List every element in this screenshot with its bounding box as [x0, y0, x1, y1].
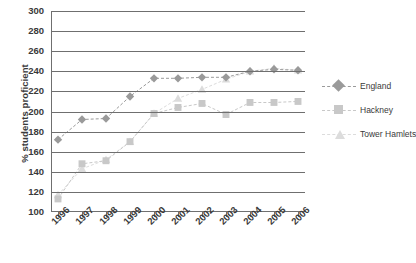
gridline — [51, 31, 305, 32]
data-point-marker — [79, 160, 86, 167]
chart-legend: EnglandHackneyTower Hamlets — [322, 74, 406, 146]
x-axis-tick-labels: 1996199719981999200020012002200320042005… — [51, 216, 321, 263]
y-axis-tick-labels: 300280260240220200180160140120100 — [16, 0, 44, 263]
y-tick-label: 100 — [18, 207, 44, 217]
gridline — [51, 152, 305, 153]
y-tick-label: 220 — [18, 86, 44, 96]
legend-marker-diamond-icon — [332, 79, 345, 92]
y-tick-label: 140 — [18, 167, 44, 177]
legend-marker-triangle-icon — [335, 130, 345, 139]
legend-item-england[interactable]: England — [322, 74, 406, 98]
legend-swatch — [322, 79, 356, 93]
data-point-marker — [198, 73, 206, 81]
data-point-marker — [102, 114, 110, 122]
y-tick-label: 260 — [18, 46, 44, 56]
data-point-marker — [271, 99, 278, 106]
y-tick-label: 160 — [18, 147, 44, 157]
legend-item-hackney[interactable]: Hackney — [322, 98, 406, 122]
data-point-marker — [199, 100, 206, 107]
plot-area — [51, 11, 305, 212]
legend-item-tower-hamlets[interactable]: Tower Hamlets — [322, 122, 406, 146]
data-point-marker — [247, 99, 254, 106]
data-point-marker — [126, 92, 134, 100]
data-point-marker — [127, 138, 134, 145]
data-point-marker — [295, 98, 302, 105]
legend-label: England — [360, 81, 391, 91]
gridline — [51, 11, 305, 12]
gridline — [51, 51, 305, 52]
data-point-marker — [175, 104, 182, 111]
y-tick-label: 200 — [18, 107, 44, 117]
legend-label: Tower Hamlets — [360, 129, 416, 139]
data-point-marker — [174, 74, 182, 82]
y-tick-label: 180 — [18, 127, 44, 137]
data-point-marker — [174, 94, 182, 101]
legend-swatch — [322, 103, 356, 117]
y-tick-label: 280 — [18, 26, 44, 36]
gridline — [51, 91, 305, 92]
legend-swatch — [322, 127, 356, 141]
gridline — [51, 172, 305, 173]
y-tick-label: 300 — [18, 6, 44, 16]
series-line-hackney — [58, 101, 298, 198]
data-point-marker — [54, 135, 62, 143]
gridline — [51, 132, 305, 133]
data-point-marker — [55, 195, 62, 202]
legend-marker-square-icon — [334, 105, 343, 114]
data-point-marker — [103, 157, 110, 164]
legend-label: Hackney — [360, 105, 393, 115]
data-point-marker — [150, 74, 158, 82]
gridline — [51, 192, 305, 193]
gridline — [51, 71, 305, 72]
y-tick-label: 240 — [18, 66, 44, 76]
gridline — [51, 112, 305, 113]
y-tick-label: 120 — [18, 187, 44, 197]
